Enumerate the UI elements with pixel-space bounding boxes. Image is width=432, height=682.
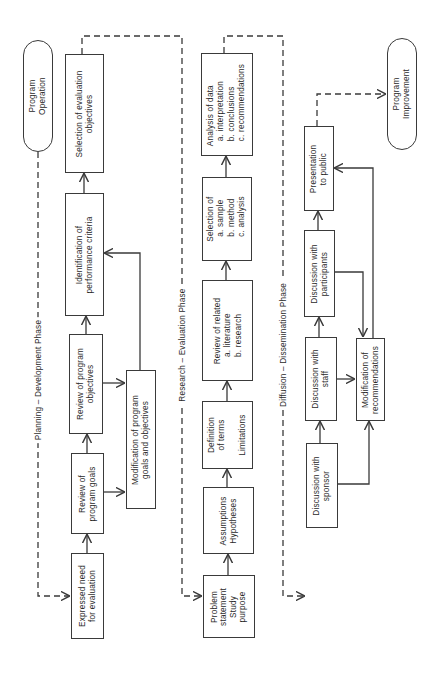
selection-of-sample-box: Selection of a. sample b. method c. anal… [202, 177, 252, 261]
assumptions-hypotheses-box: Assumptions Hypotheses [203, 487, 254, 554]
modification-of-program-goals-box: Modification of program goals and object… [126, 370, 156, 509]
discussion-with-sponsor-box: Discussion with sponsor [306, 443, 338, 528]
definition-of-terms-box: Definition of terms Limitations [202, 401, 253, 469]
discussion-with-participants-box: Discussion with participants [304, 230, 335, 317]
phase-label-research: Research – Evaluation Phase [178, 285, 187, 404]
modification-of-program-goals-label: Modification of program goals and object… [131, 394, 152, 484]
program-improvement-terminal: Program Improvement [387, 38, 417, 150]
discussion-with-participants-label: Discussion with participants [309, 244, 330, 303]
program-improvement-label: Program Improvement [392, 69, 413, 119]
modification-of-recommendations-box: Modification of recommendations [356, 338, 385, 421]
expressed-need-for-evaluation-box: Expressed need for evaluation [71, 553, 104, 639]
presentation-to-public-box: Presentation to public [304, 126, 334, 211]
discussion-with-staff-label: Discussion with staff [311, 349, 332, 408]
problem-statement-label: Problem statement Study purpose [210, 588, 248, 626]
review-of-program-goals-box: Review of program goals [71, 453, 104, 534]
selection-of-evaluation-objectives-box: Selection of evaluation objectives [65, 54, 104, 173]
expressed-need-for-evaluation-label: Expressed need for evaluation [77, 565, 98, 627]
evaluation-process-flowchart: Planning – Development Phase Research – … [0, 0, 432, 682]
analysis-of-data-label: Analysis of data a. interpretation b. co… [206, 63, 247, 145]
selection-of-evaluation-objectives-label: Selection of evaluation objectives [74, 70, 95, 157]
identification-of-performance-criteria-box: Identification of performance criteria [65, 193, 104, 316]
review-of-program-goals-label: Review of program goals [77, 466, 98, 521]
program-operation-terminal: Program Operation [23, 40, 53, 152]
review-of-program-objectives-label: Review of program objectives [76, 348, 97, 420]
phase-label-planning: Planning – Development Phase [34, 317, 43, 443]
review-of-program-objectives-box: Review of program objectives [69, 334, 103, 434]
discussion-with-staff-box: Discussion with staff [305, 337, 337, 421]
identification-of-performance-criteria-label: Identification of performance criteria [74, 216, 95, 293]
review-of-related-literature-label: Review of related a. literature b. resea… [212, 297, 243, 364]
assumptions-hypotheses-label: Assumptions Hypotheses [218, 496, 239, 545]
definition-of-terms-label: Definition of terms Limitations [207, 414, 248, 455]
phase-label-diffusion: Diffusion – Dissemination Phase [279, 280, 288, 410]
presentation-to-public-label: Presentation to public [309, 144, 330, 192]
modification-of-recommendations-label: Modification of recommendations [360, 345, 381, 413]
problem-statement-box: Problem statement Study purpose [203, 575, 255, 638]
program-operation-label: Program Operation [28, 77, 49, 115]
analysis-of-data-box: Analysis of data a. interpretation b. co… [201, 53, 253, 156]
selection-of-sample-label: Selection of a. sample b. method c. anal… [206, 196, 247, 241]
review-of-related-literature-box: Review of related a. literature b. resea… [202, 280, 253, 381]
discussion-with-sponsor-label: Discussion with sponsor [312, 456, 333, 515]
